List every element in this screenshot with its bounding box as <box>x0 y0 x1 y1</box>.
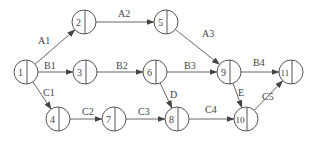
edge-label-a3: A3 <box>202 28 214 39</box>
node-2: 2 <box>72 10 96 34</box>
node-8: 8 <box>165 107 189 131</box>
node-label: 6 <box>147 67 152 78</box>
edge-label-e: E <box>238 87 244 98</box>
node-label: 2 <box>76 17 81 28</box>
node-4: 4 <box>46 107 70 131</box>
node-label: 9 <box>221 67 226 78</box>
node-5: 5 <box>154 10 178 34</box>
edge-label-c1: C1 <box>43 87 55 98</box>
node-label: 7 <box>106 114 111 125</box>
edge-label-a1: A1 <box>38 35 50 46</box>
node-3: 3 <box>73 60 97 84</box>
edge-label-b1: B1 <box>44 60 56 71</box>
node-label: 1 <box>18 67 23 78</box>
node-9: 9 <box>217 60 241 84</box>
edge-label-b4: B4 <box>253 57 265 68</box>
nodes-layer: 1234567891011 <box>14 10 303 131</box>
edge-label-a2: A2 <box>118 8 130 19</box>
edge-label-b3: B3 <box>184 60 196 71</box>
node-label: 11 <box>281 68 290 78</box>
node-label: 3 <box>77 67 82 78</box>
edge-label-d: D <box>170 89 177 100</box>
node-1: 1 <box>14 60 38 84</box>
edge-label-c4: C4 <box>205 104 217 115</box>
edge-label-c2: C2 <box>82 106 94 117</box>
edge-label-c3: C3 <box>138 106 150 117</box>
node-label: 8 <box>169 114 174 125</box>
edge-label-b2: B2 <box>116 60 128 71</box>
node-label: 5 <box>158 17 163 28</box>
node-label: 4 <box>50 114 55 125</box>
edge-label-c5: C5 <box>262 91 274 102</box>
network-diagram: A1A2A3B1B2B3B4C1C2C3C4C5DE 1234567891011 <box>0 0 309 143</box>
node-11: 11 <box>279 60 303 84</box>
node-label: 10 <box>236 115 246 125</box>
node-7: 7 <box>102 107 126 131</box>
node-6: 6 <box>143 60 167 84</box>
node-10: 10 <box>234 107 258 131</box>
